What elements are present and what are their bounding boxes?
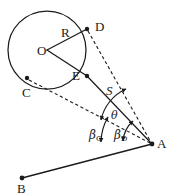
point-marker-E xyxy=(85,74,89,78)
point-marker-C xyxy=(25,76,29,80)
geometry-figure: O D E C A B R S θ βC βD xyxy=(0,0,172,196)
label-point-B: B xyxy=(17,182,26,195)
beta-c-subscript: C xyxy=(96,134,102,143)
label-point-O: O xyxy=(37,44,46,57)
point-marker-A xyxy=(150,142,155,147)
beta-d-symbol: β xyxy=(114,128,121,142)
label-angle-beta-d: βD xyxy=(114,129,127,143)
label-angle-beta-c: βC xyxy=(89,129,102,143)
label-distance-S: S xyxy=(106,84,113,97)
label-point-C: C xyxy=(22,86,31,99)
point-marker-B xyxy=(20,176,25,181)
beta-d-subscript: D xyxy=(121,134,127,143)
point-marker-D xyxy=(85,27,89,31)
beta-c-symbol: β xyxy=(89,128,96,142)
label-point-D: D xyxy=(95,20,104,33)
label-point-A: A xyxy=(157,137,166,150)
label-point-E: E xyxy=(72,69,80,82)
segment-baseline-AB xyxy=(22,144,152,178)
label-radius-R: R xyxy=(61,26,70,39)
label-angle-theta: θ xyxy=(111,110,118,121)
segment-radius-OE xyxy=(47,50,87,76)
